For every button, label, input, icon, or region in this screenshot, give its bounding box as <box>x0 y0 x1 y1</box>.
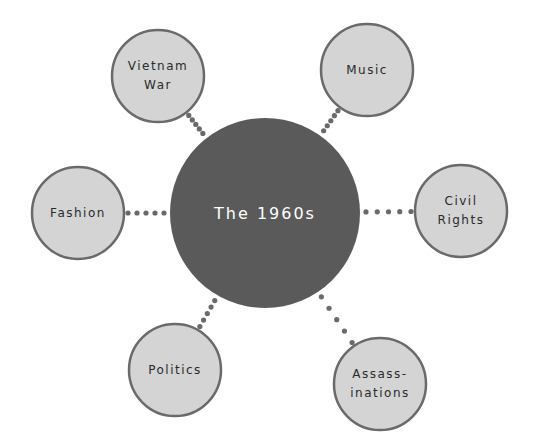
node-label: Fashion <box>50 206 106 220</box>
node-circle <box>415 165 507 257</box>
node-label: Civil <box>445 194 478 208</box>
mind-map-diagram: VietnamWarMusicCivilRightsFashionPolitic… <box>0 0 535 446</box>
node-fashion: Fashion <box>32 167 124 259</box>
connector-dot <box>197 126 202 131</box>
center-label: The 1960s <box>213 204 316 223</box>
node-music: Music <box>321 24 413 116</box>
connector-dot <box>190 117 195 122</box>
connector-dot <box>186 113 191 118</box>
connector-dot <box>193 122 198 127</box>
center-node: The 1960s <box>170 118 360 308</box>
connector-dot <box>152 210 157 215</box>
connector-dot <box>408 209 413 214</box>
connector-dot <box>161 210 166 215</box>
connector-dot <box>197 324 202 329</box>
connector-dot <box>363 209 368 214</box>
connector-dot <box>325 123 330 128</box>
connector-dot <box>386 209 391 214</box>
connector-dot <box>208 305 213 310</box>
connector-dot <box>375 209 380 214</box>
node-politics: Politics <box>129 324 221 416</box>
connector-dot <box>201 318 206 323</box>
node-assassinations: Assass-inations <box>334 338 426 430</box>
connector-dot <box>143 210 148 215</box>
connector-dot <box>342 328 347 333</box>
node-circle <box>112 30 204 122</box>
node-circle <box>334 338 426 430</box>
node-civil-rights: CivilRights <box>415 165 507 257</box>
node-label: Assass- <box>352 367 407 381</box>
connector-dot <box>321 128 326 133</box>
connector-dot <box>212 298 217 303</box>
node-label: Politics <box>148 363 202 377</box>
connector-dot <box>334 317 339 322</box>
connector-dot <box>134 210 139 215</box>
node-label: Rights <box>438 213 485 227</box>
connector-dot <box>349 340 354 345</box>
connector-dot <box>205 311 210 316</box>
connector-dot <box>326 306 331 311</box>
node-label: War <box>144 78 172 92</box>
connector-dot <box>332 113 337 118</box>
connector-dot <box>335 108 340 113</box>
node-label: inations <box>350 386 410 400</box>
connector-dot <box>328 118 333 123</box>
node-vietnam-war: VietnamWar <box>112 30 204 122</box>
connector-dot <box>200 131 205 136</box>
connector-dot <box>319 294 324 299</box>
node-label: Music <box>346 63 388 77</box>
node-label: Vietnam <box>128 59 189 73</box>
connector-dot <box>397 209 402 214</box>
connector-dot <box>125 210 130 215</box>
